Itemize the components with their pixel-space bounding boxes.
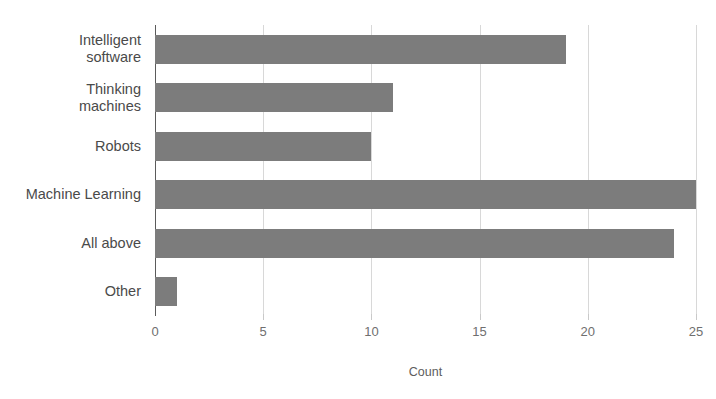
x-tick-mark <box>588 314 589 320</box>
x-tick-label: 20 <box>581 324 595 339</box>
y-axis-label-line: Robots <box>95 138 141 155</box>
y-axis-label: All above <box>0 219 148 268</box>
y-axis-label-line: machines <box>79 98 141 115</box>
x-axis-tick-labels: 0510152025 <box>155 320 696 342</box>
y-axis-label: Other <box>0 268 148 317</box>
x-tick-mark <box>696 314 697 320</box>
y-axis-label-line: Machine Learning <box>26 186 141 203</box>
y-axis-label-line: Other <box>105 283 141 300</box>
gridline-25 <box>696 25 697 316</box>
y-axis-label: Robots <box>0 122 148 171</box>
bar-row <box>155 25 696 74</box>
bar-series <box>155 25 696 316</box>
bar-row <box>155 122 696 171</box>
y-axis-label-line: software <box>86 49 141 66</box>
x-tick-label: 15 <box>472 324 486 339</box>
x-tick-mark <box>263 314 264 320</box>
bar-row <box>155 219 696 268</box>
y-axis-label: Intelligentsoftware <box>0 25 148 74</box>
x-tick-label: 0 <box>151 324 158 339</box>
y-axis-label: Thinkingmachines <box>0 74 148 123</box>
bar <box>155 277 177 306</box>
y-axis-category-labels: IntelligentsoftwareThinkingmachinesRobot… <box>0 25 148 316</box>
x-tick-label: 10 <box>364 324 378 339</box>
y-axis-label-line: Thinking <box>86 81 141 98</box>
y-axis-label-line: Intelligent <box>79 32 141 49</box>
bar <box>155 35 566 64</box>
bar-row <box>155 268 696 317</box>
x-tick-label: 5 <box>260 324 267 339</box>
x-tick-mark <box>371 314 372 320</box>
bar-row <box>155 74 696 123</box>
x-axis-title: Count <box>155 365 696 379</box>
bar-row <box>155 171 696 220</box>
x-tick-mark <box>480 314 481 320</box>
bar-chart: IntelligentsoftwareThinkingmachinesRobot… <box>0 0 716 399</box>
x-tick-label: 25 <box>689 324 703 339</box>
bar <box>155 180 696 209</box>
bar <box>155 132 371 161</box>
bar <box>155 83 393 112</box>
y-axis-label: Machine Learning <box>0 171 148 220</box>
plot-area <box>155 25 696 316</box>
bar <box>155 229 674 258</box>
y-axis-label-line: All above <box>81 235 141 252</box>
